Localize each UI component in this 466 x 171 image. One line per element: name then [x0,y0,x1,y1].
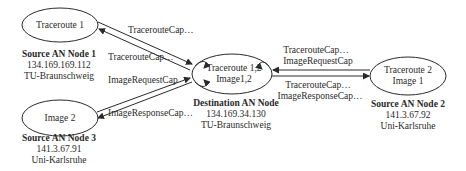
edge-label-s3-to-dest: ImageRequestCap [108,75,178,86]
edge-label-s1-to-dest: TracerouteCap… [128,25,194,36]
source2-ellipse-line2: Image 1 [384,76,432,87]
source2-caption: Source AN Node 2 141.3.67.92 Uni-Karlsru… [371,99,445,132]
node-source2-label: Traceroute 2 Image 1 [384,65,432,87]
source1-caption: Source AN Node 1 134.169.169.112 TU-Brau… [22,49,96,82]
source3-ip: 141.3.67.91 [22,144,96,155]
source3-title: Source AN Node 3 [22,133,96,144]
destination-org: TU-Braunschweig [193,120,279,131]
source3-caption: Source AN Node 3 141.3.67.91 Uni-Karlsru… [22,133,96,166]
source2-ellipse-line1: Traceroute 2 [384,65,432,76]
source1-ip: 134.169.169.112 [22,60,96,71]
destination-caption: Destination AN Node 134.169.34.130 TU-Br… [193,98,279,131]
source3-ellipse-text: Image 2 [45,113,76,123]
source2-title: Source AN Node 2 [371,99,445,110]
destination-title: Destination AN Node [193,98,279,109]
destination-ellipse-line2: Image1,2 [206,74,261,85]
source3-org: Uni-Karlsruhe [22,155,96,166]
self-loop-dest-top [195,62,206,68]
source2-ip: 141.3.67.92 [371,110,445,121]
node-source3-label: Image 2 [45,113,76,124]
source1-ellipse-text: Traceroute 1 [36,20,84,30]
edge-label-s2-to-dest-2: ImageRequestCap [283,56,353,67]
edge-label-dest-to-s2-1: TracerouteCap… [285,80,351,91]
source1-org: TU-Braunschweig [22,71,96,82]
edge-label-dest-to-s1: TracerouteCap… [108,52,174,63]
edge-label-dest-to-s2-2: ImageResponseCap… [278,91,363,102]
node-source1-label: Traceroute 1 [36,20,84,31]
self-loop-dest-bottom [195,80,206,86]
source2-org: Uni-Karlsruhe [371,121,445,132]
edge-label-s2-to-dest-1: TracerouteCap… [283,45,349,56]
destination-ip: 134.169.34.130 [193,109,279,120]
node-destination-label: Traceroute 1,2 Image1,2 [206,63,261,85]
edge-label-dest-to-s3: ImageResponseCap… [108,108,193,119]
destination-ellipse-line1: Traceroute 1,2 [206,63,261,74]
source1-title: Source AN Node 1 [22,49,96,60]
